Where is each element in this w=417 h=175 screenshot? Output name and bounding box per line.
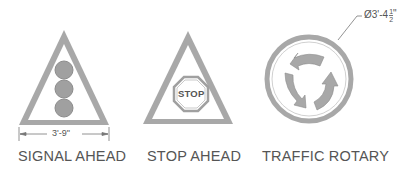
rotary-dimension-suffix: "	[393, 8, 397, 19]
traffic-rotary-sign	[267, 37, 351, 121]
rotary-dimension-main: Ø3'-4	[364, 9, 388, 20]
rotary-dimension-leader	[338, 16, 362, 40]
signal-light-bottom-icon	[55, 99, 73, 117]
rotary-arrows-icon	[285, 53, 338, 110]
signal-light-top-icon	[55, 61, 73, 79]
stop-text: STOP	[178, 88, 205, 99]
signal-dimension-label: 3'-9"	[52, 128, 70, 138]
traffic-rotary-label: TRAFFIC ROTARY	[262, 148, 389, 164]
signal-ahead-label: SIGNAL AHEAD	[18, 148, 126, 164]
signal-ahead-sign	[19, 30, 109, 125]
rotary-dimension-label: Ø3'-412"	[364, 8, 397, 23]
stop-ahead-label: STOP AHEAD	[147, 148, 241, 164]
stop-ahead-sign	[143, 31, 233, 124]
signal-light-middle-icon	[55, 80, 73, 98]
